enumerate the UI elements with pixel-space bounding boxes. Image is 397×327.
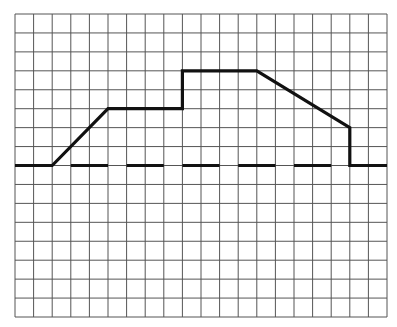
line-chart (0, 0, 397, 327)
